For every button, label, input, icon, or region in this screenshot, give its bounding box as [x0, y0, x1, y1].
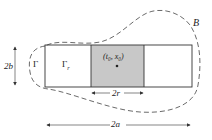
label-center-point: (t₀, x₀) — [103, 53, 124, 61]
center-point — [116, 65, 119, 68]
label-2r: 2r — [112, 89, 120, 98]
label-b: B — [193, 18, 199, 28]
label-gamma-r: Γr — [62, 60, 70, 71]
label-gamma: Γ — [33, 60, 38, 69]
label-2a: 2a — [111, 120, 120, 129]
label-gamma-r-sub: r — [67, 65, 69, 71]
label-2b: 2b — [4, 62, 13, 71]
diagram-canvas — [0, 0, 212, 140]
